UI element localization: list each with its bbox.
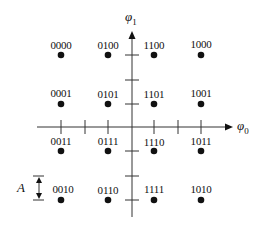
phi0-axis-label: φ0 <box>237 119 249 136</box>
constellation-point <box>58 52 65 59</box>
constellation-point <box>151 148 158 155</box>
constellation-point <box>105 148 112 155</box>
point-label: 1100 <box>144 40 165 51</box>
arrow-down-icon <box>36 193 42 199</box>
constellation-point <box>198 197 205 204</box>
constellation-point <box>105 197 112 204</box>
arrow-up-icon <box>36 177 42 183</box>
phi1-axis-label: φ1 <box>125 10 137 27</box>
point-label: 0010 <box>52 184 73 195</box>
point-label: 0001 <box>50 88 71 99</box>
constellation-svg <box>0 0 261 227</box>
constellation-point <box>58 197 65 204</box>
point-label: 0000 <box>50 40 71 51</box>
point-label: 1001 <box>190 88 211 99</box>
constellation-point <box>151 52 158 59</box>
point-label: 0011 <box>51 136 72 147</box>
constellation-point <box>151 101 158 108</box>
point-label: 1000 <box>190 39 211 50</box>
point-label: 1110 <box>144 137 164 148</box>
point-label: 1101 <box>144 89 165 100</box>
constellation-point <box>198 101 205 108</box>
point-label: 0110 <box>98 185 119 196</box>
constellation-diagram: φ1 φ0 A 0000 0100 1100 1000 0001 0101 11… <box>0 0 261 227</box>
constellation-point <box>198 52 205 59</box>
constellation-point <box>198 148 205 155</box>
spacing-label: A <box>17 181 25 194</box>
constellation-point <box>58 148 65 155</box>
point-label: 1010 <box>190 184 211 195</box>
constellation-point <box>151 197 158 204</box>
constellation-point <box>105 52 112 59</box>
point-label: 1111 <box>144 184 164 195</box>
point-label: 0111 <box>98 136 118 147</box>
point-label: 0100 <box>97 40 118 51</box>
constellation-point <box>58 101 65 108</box>
phi1-arrow-icon <box>129 31 136 39</box>
point-label: 0101 <box>97 89 118 100</box>
phi0-arrow-icon <box>225 124 233 131</box>
point-label: 1011 <box>191 136 212 147</box>
constellation-point <box>105 101 112 108</box>
